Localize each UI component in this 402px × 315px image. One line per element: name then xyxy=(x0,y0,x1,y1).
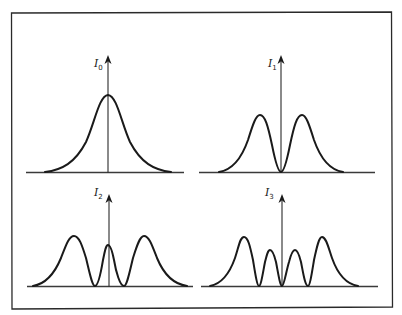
panel-I2: I2 xyxy=(27,186,193,287)
intensity-curve xyxy=(210,237,358,286)
panel-I3: I3 xyxy=(201,186,378,287)
panel-I0: I0 xyxy=(26,55,184,173)
axis-label: I1 xyxy=(267,57,277,72)
axis-label: I2 xyxy=(93,186,103,201)
intensity-profiles-figure: I0 I1 I2 I3 xyxy=(0,0,402,315)
axis-label: I3 xyxy=(264,186,274,201)
intensity-curve xyxy=(33,236,187,286)
panel-I1: I1 xyxy=(199,55,375,173)
axis-label: I0 xyxy=(93,57,103,72)
